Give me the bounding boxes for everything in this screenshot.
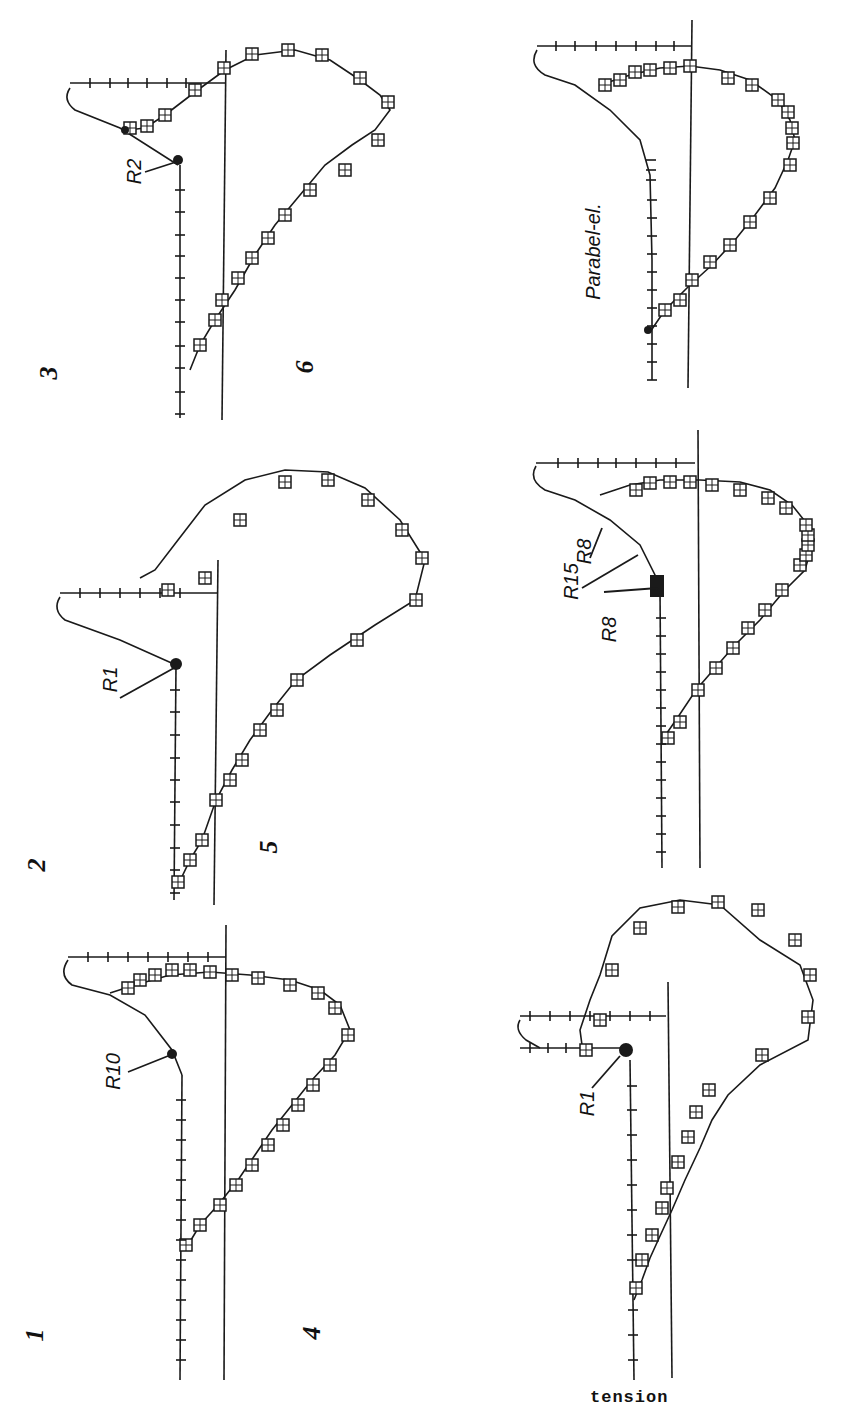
figure-canvas [0, 0, 848, 1406]
panel-3 [67, 44, 394, 420]
panel-4 [518, 896, 816, 1380]
panel-5 [533, 430, 814, 868]
panel-1 [64, 925, 354, 1380]
panel-6 [534, 20, 799, 388]
panel-2 [57, 470, 428, 905]
